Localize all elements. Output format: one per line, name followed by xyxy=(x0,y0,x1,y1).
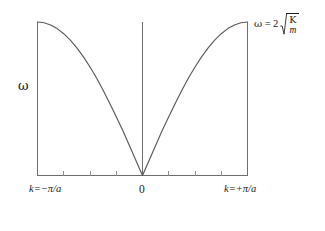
fraction-denominator: m xyxy=(289,25,296,35)
fraction-numerator: Κ xyxy=(289,15,296,25)
radical-group: Κ m xyxy=(280,13,300,35)
max-frequency-annotation: ω = 2 Κ m xyxy=(254,13,299,35)
y-axis-label: ω xyxy=(18,79,29,92)
x-axis-label-left: k=−π/a xyxy=(29,184,61,195)
x-axis-label-right: k=+π/a xyxy=(224,184,256,195)
coefficient-value: 2 xyxy=(273,19,278,30)
equals-symbol: = xyxy=(265,19,271,30)
x-axis-label-center: 0 xyxy=(139,184,145,196)
radicand-fraction: Κ m xyxy=(286,13,299,35)
omega-symbol: ω xyxy=(254,19,262,29)
dispersion-figure: ω k=−π/a 0 k=+π/a ω = 2 Κ m xyxy=(0,0,325,231)
